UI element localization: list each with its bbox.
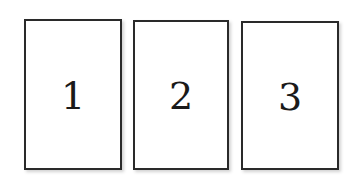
card-number: 3 <box>278 78 302 116</box>
card-number: 2 <box>169 77 193 115</box>
card-3: 3 <box>241 21 339 170</box>
card-number: 1 <box>61 77 85 115</box>
card-2: 2 <box>133 20 229 170</box>
card-1: 1 <box>24 19 122 170</box>
